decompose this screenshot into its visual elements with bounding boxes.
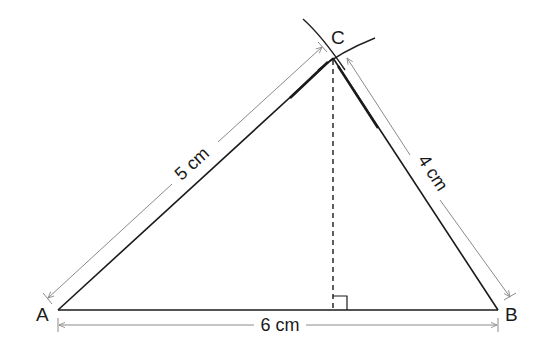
measurement-label-ab: 6 cm	[260, 315, 299, 335]
dimension-line-bc-2	[440, 200, 510, 297]
vertex-label-a: A	[36, 304, 49, 325]
dimension-tick-ac-a	[43, 293, 52, 304]
compass-arc-from-b	[318, 38, 375, 70]
vertex-label-c: C	[331, 27, 345, 48]
measurement-label-bc: 4 cm	[414, 151, 452, 195]
right-angle-marker	[333, 296, 347, 310]
measurement-label-ac: 5 cm	[171, 143, 213, 184]
dimension-line-bc-1	[347, 58, 410, 155]
pencil-trace-ac	[290, 62, 328, 98]
vertex-label-b: B	[505, 304, 518, 325]
dimension-line-ac-2	[218, 47, 322, 142]
triangle-diagram: A B C 5 cm 4 cm 6 cm	[0, 0, 548, 349]
dimension-line-ac-1	[48, 184, 172, 298]
